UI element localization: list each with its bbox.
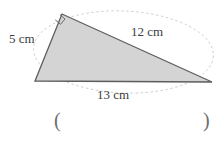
label-side-13cm-text: 13 cm — [97, 87, 129, 102]
label-side-12cm: 12 cm — [131, 24, 165, 40]
answer-paren-close: ) — [203, 110, 210, 130]
answer-input-blank[interactable] — [66, 112, 200, 134]
label-side-5cm-text: 5 cm — [9, 31, 35, 46]
label-side-5cm: 5 cm — [9, 31, 36, 47]
label-side-13cm: 13 cm — [97, 87, 131, 103]
answer-paren-open: ( — [54, 110, 61, 130]
label-side-12cm-text: 12 cm — [131, 24, 163, 39]
geometry-figure: 5 cm 12 cm 13 cm ( ) — [0, 0, 224, 145]
